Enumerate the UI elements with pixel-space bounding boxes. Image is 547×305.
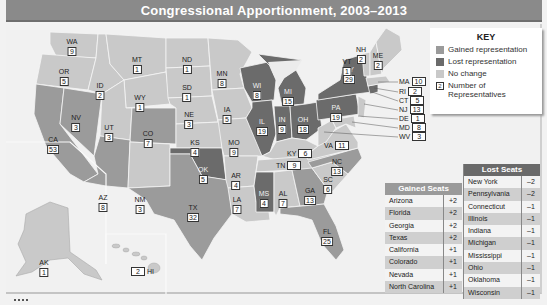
label-WV: WV3 (399, 132, 426, 141)
label-RI: RI2 (399, 87, 422, 96)
no-change-swatch-icon (436, 70, 444, 78)
label-CT: CT5 (399, 96, 424, 105)
table-row: Georgia+2 (385, 220, 462, 232)
table-row: Michigan–1 (464, 237, 540, 249)
label-NJ: NJ13 (399, 105, 424, 114)
table-row: Indiana–1 (464, 225, 540, 237)
publisher-logo-icon (14, 299, 28, 305)
gained-seats-table: Gained Seats Arizona+2 Florida+2 Georgia… (385, 183, 462, 293)
table-row: Oklahoma–1 (464, 274, 540, 286)
table-row: California+1 (385, 244, 462, 256)
gained-swatch-icon (436, 46, 444, 54)
key-item-lost: Lost representation (436, 57, 536, 66)
table-row: New York–2 (464, 176, 540, 188)
key-item-number: 2 Number of Representatives (436, 81, 536, 99)
table-row: North Carolina+1 (385, 281, 462, 293)
key-title: KEY (436, 32, 536, 42)
table-row: Ohio–1 (464, 262, 540, 274)
table-row: Florida+2 (385, 207, 462, 219)
map-title: Congressional Apportionment, 2003–2013 (6, 0, 542, 22)
table-row: Nevada+1 (385, 269, 462, 281)
table-row: Illinois–1 (464, 213, 540, 225)
key-item-no-change: No change (436, 69, 536, 78)
table-row: Wisconsin–1 (464, 287, 540, 299)
lost-swatch-icon (436, 58, 444, 66)
number-box-icon: 2 (436, 82, 444, 90)
gained-seats-header: Gained Seats (385, 183, 462, 195)
label-MA: MA10 (399, 77, 426, 86)
lost-seats-header: Lost Seats (464, 164, 540, 176)
map-key: KEY Gained representation Lost represent… (430, 28, 542, 114)
lost-seats-table: Lost Seats New York–2 Pennsylvania–2 Con… (463, 164, 540, 299)
table-row: Connecticut–1 (464, 201, 540, 213)
label-MD: MD8 (399, 123, 426, 132)
key-item-gained: Gained representation (436, 45, 536, 54)
label-DE: DE1 (399, 114, 425, 123)
table-row: Arizona+2 (385, 195, 462, 207)
table-row: Texas+2 (385, 232, 462, 244)
table-row: Mississippi–1 (464, 250, 540, 262)
table-row: Colorado+1 (385, 256, 462, 268)
table-row: Pennsylvania–2 (464, 188, 540, 200)
